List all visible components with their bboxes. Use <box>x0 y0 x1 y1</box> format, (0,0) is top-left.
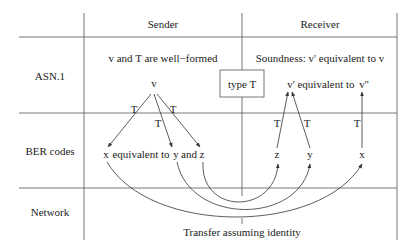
receiver-t-x: T <box>354 117 361 129</box>
encode-arrow-x <box>108 94 151 147</box>
transfer-curve-y <box>177 162 310 210</box>
receiver-t-z: T <box>274 117 281 129</box>
column-header-sender: Sender <box>148 18 179 30</box>
receiver-t-y: T <box>304 117 311 129</box>
sender-t-mid: T <box>155 117 162 129</box>
receiver-code-x: x <box>359 148 365 160</box>
sender-equiv-text: equivalent to <box>112 148 170 160</box>
grid-lines <box>19 13 397 240</box>
sender-value-v: v <box>151 77 157 89</box>
receiver-equiv-text: equivalent to <box>297 78 355 90</box>
row-label-network: Network <box>31 206 70 218</box>
sender-wellformed-note: v and T are well−formed <box>108 52 218 64</box>
row-label-ber: BER codes <box>25 145 74 157</box>
sender-and-text: and <box>181 148 197 160</box>
transfer-label: Transfer assuming identity <box>183 226 301 238</box>
receiver-vprime: v' <box>287 78 295 90</box>
sender-code-z: z <box>200 148 205 160</box>
column-header-receiver: Receiver <box>300 18 339 30</box>
receiver-soundness-note: Soundness: v' equivalent to v <box>256 52 385 64</box>
type-t-label: type T <box>228 78 256 90</box>
receiver-code-y: y <box>307 148 313 160</box>
receiver-vdoubleprime: v'' <box>359 78 368 90</box>
receiver-code-z: z <box>275 148 280 160</box>
sender-code-y: y <box>173 148 179 160</box>
row-label-asn1: ASN.1 <box>35 70 65 82</box>
ber-transfer-diagram: Sender Receiver ASN.1 BER codes Network … <box>0 0 413 252</box>
sender-code-x: x <box>103 148 109 160</box>
transfer-curve-z <box>203 162 278 202</box>
sender-t-right: T <box>170 103 177 115</box>
encode-arrow-z <box>157 94 200 147</box>
sender-t-left: T <box>131 103 138 115</box>
